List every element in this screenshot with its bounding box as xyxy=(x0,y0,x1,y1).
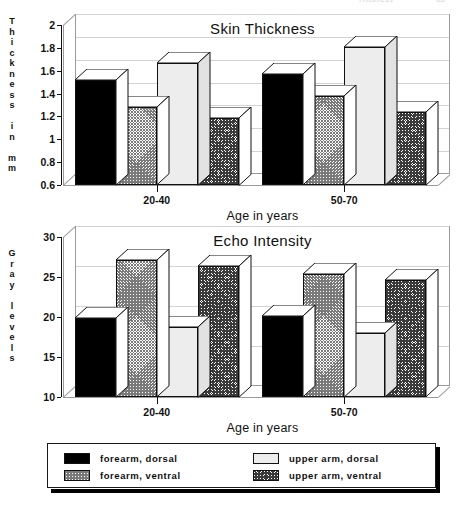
grid-line xyxy=(76,226,449,227)
scan-artifact: Thickness dB xyxy=(330,0,469,9)
plot-front-right-edge xyxy=(449,14,450,174)
y-axis-tick-label: 1.2 xyxy=(21,110,55,122)
y-axis-tick-label: 0.8 xyxy=(21,156,55,168)
bar-forearm--ventral-20-40 xyxy=(116,107,157,185)
y-axis-tick xyxy=(57,317,61,318)
x-axis-tick xyxy=(344,397,345,404)
axis-title-char: i xyxy=(4,121,20,132)
y-axis-line xyxy=(61,25,62,185)
x-axis-tick-label: 50-70 xyxy=(304,406,384,418)
axis-title-char: G xyxy=(4,248,20,259)
legend-shadow-right xyxy=(436,447,440,493)
bar-front xyxy=(116,107,157,185)
x-axis-tick-label: 20-40 xyxy=(117,406,197,418)
axis-title-char: h xyxy=(4,27,20,38)
legend-swatch xyxy=(253,470,279,481)
legend-label: upper arm, dorsal xyxy=(289,452,379,465)
legend-label: upper arm, ventral xyxy=(289,469,382,482)
plot-floor-right xyxy=(438,386,451,398)
bar-front xyxy=(75,80,116,185)
legend: forearm, dorsalforearm, ventralupper arm… xyxy=(47,443,436,488)
bar-forearm--ventral-50-70 xyxy=(303,96,344,185)
x-axis-tick-label: 20-40 xyxy=(117,194,197,206)
y-axis-tick-label: 30 xyxy=(21,231,55,243)
axis-title-char: a xyxy=(4,269,20,280)
bar-front xyxy=(75,318,116,397)
scan-artifact-left-text: Thickness xyxy=(358,0,393,3)
axis-title-char: s xyxy=(4,100,20,111)
bar-forearm--dorsal-50-70 xyxy=(262,316,303,397)
chart-title: Skin Thickness xyxy=(75,20,450,37)
bar-forearm--ventral-20-40 xyxy=(116,260,157,397)
y-axis-tick-label: 25 xyxy=(21,271,55,283)
axis-title-char: k xyxy=(4,58,20,69)
y-axis-tick xyxy=(57,237,61,238)
bar-front xyxy=(157,63,198,185)
bar-front xyxy=(198,118,239,185)
y-axis-tick xyxy=(57,71,61,72)
legend-shadow xyxy=(51,489,440,493)
bar-upper-arm--dorsal-50-70 xyxy=(344,333,385,397)
bar-upper-arm--dorsal-50-70 xyxy=(344,47,385,185)
chart-skin-thickness: Thicknessinmm0.60.811.21.41.61.82Skin Th… xyxy=(0,10,469,215)
y-axis-tick-label: 10 xyxy=(21,391,55,403)
x-axis-title: Age in years xyxy=(75,209,450,223)
axis-title-char: c xyxy=(4,48,20,59)
legend-label: forearm, ventral xyxy=(100,469,181,482)
axis-title-char: l xyxy=(4,343,20,354)
axis-title-char: y xyxy=(4,280,20,291)
bar-front xyxy=(198,266,239,397)
x-axis-tick-label: 50-70 xyxy=(304,194,384,206)
scan-artifact-right-text: dB xyxy=(436,0,445,3)
bar-front xyxy=(344,47,385,185)
y-axis-tick xyxy=(57,185,61,186)
y-axis-tick-label: 0.6 xyxy=(21,179,55,191)
legend-swatch xyxy=(64,470,90,481)
plot-area xyxy=(63,226,450,397)
y-axis-tick xyxy=(57,25,61,26)
bar-front xyxy=(385,280,426,397)
y-axis-tick xyxy=(57,357,61,358)
y-axis-tick xyxy=(57,139,61,140)
y-axis-tick xyxy=(57,277,61,278)
y-axis-tick-label: 1 xyxy=(21,133,55,145)
plot-floor-front xyxy=(63,185,438,186)
plot-left-wall-bottom xyxy=(63,226,76,238)
y-axis-tick xyxy=(57,48,61,49)
legend-swatch xyxy=(253,453,279,464)
axis-title-char: i xyxy=(4,37,20,48)
bar-upper-arm--ventral-20-40 xyxy=(198,266,239,397)
y-axis-tick xyxy=(57,94,61,95)
x-axis-title: Age in years xyxy=(75,421,450,435)
y-axis-tick-label: 1.4 xyxy=(21,88,55,100)
y-axis-tick-label: 1.8 xyxy=(21,42,55,54)
axis-title-char: s xyxy=(4,353,20,364)
bar-forearm--dorsal-50-70 xyxy=(262,74,303,185)
y-axis-tick-label: 15 xyxy=(21,351,55,363)
y-axis-line xyxy=(61,237,62,397)
axis-title-char: e xyxy=(4,79,20,90)
plot-floor-front xyxy=(63,397,438,398)
bar-front xyxy=(344,333,385,397)
axis-title-char: m xyxy=(4,153,20,164)
axis-title-char xyxy=(4,142,20,153)
grid-line xyxy=(76,14,449,15)
axis-title-char: n xyxy=(4,69,20,80)
y-axis-tick-label: 20 xyxy=(21,311,55,323)
bar-forearm--dorsal-20-40 xyxy=(75,80,116,185)
grid-line xyxy=(76,60,449,61)
axis-title-gray-levels: Graylevels xyxy=(4,248,20,364)
plot-front-left-edge xyxy=(63,25,64,185)
y-axis-tick-label: 1.6 xyxy=(21,65,55,77)
bar-upper-arm--ventral-20-40 xyxy=(198,118,239,185)
bar-upper-arm--ventral-50-70 xyxy=(385,112,426,185)
x-axis-tick xyxy=(344,185,345,192)
plot-front-right-edge xyxy=(449,226,450,386)
axis-title-char: s xyxy=(4,90,20,101)
x-axis-tick xyxy=(157,397,158,404)
bar-upper-arm--dorsal-20-40 xyxy=(157,63,198,185)
plot-front-left-edge xyxy=(63,237,64,397)
axis-title-char: l xyxy=(4,301,20,312)
axis-title-char: T xyxy=(4,16,20,27)
plot-floor-right xyxy=(438,174,451,186)
